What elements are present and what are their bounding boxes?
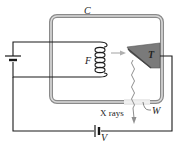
filament-coil-icon (95, 42, 107, 77)
label-filament-f: F (84, 55, 92, 66)
xray-tube-diagram: C F T X rays W V (0, 0, 181, 148)
label-voltage-v: V (101, 132, 109, 143)
label-envelope-c: C (84, 5, 91, 16)
voltage-source-icon (95, 125, 99, 137)
label-target-t: T (148, 49, 155, 60)
label-xrays: X rays (100, 108, 124, 118)
high-voltage-circuit (13, 56, 172, 131)
electron-beam-arrow-icon (111, 51, 126, 56)
label-window-w: W (152, 105, 162, 116)
xray-emission-icon (132, 60, 137, 124)
filament-battery-icon (5, 56, 21, 60)
